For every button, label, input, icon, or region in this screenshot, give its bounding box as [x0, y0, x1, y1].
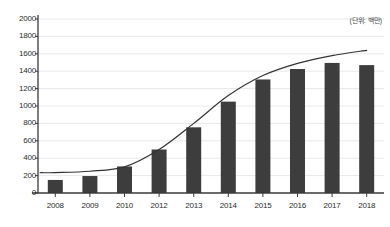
x-tick-label-2008: 2008: [39, 202, 71, 210]
bar-chart: 0200400600800100012001400160018002000 20…: [0, 0, 390, 227]
x-tick-label-2017: 2017: [316, 202, 348, 210]
x-tick-label-2012: 2012: [143, 202, 175, 210]
unit-annotation: (단위: 백만): [349, 15, 382, 25]
x-tick-label-2014: 2014: [212, 202, 244, 210]
x-axis-tick-labels: 2008200920102012201320142015201620172018: [0, 0, 390, 227]
x-tick-label-2013: 2013: [178, 202, 210, 210]
x-tick-label-2015: 2015: [247, 202, 279, 210]
x-tick-label-2016: 2016: [282, 202, 314, 210]
x-tick-label-2018: 2018: [351, 202, 383, 210]
x-tick-label-2010: 2010: [109, 202, 141, 210]
x-tick-label-2009: 2009: [74, 202, 106, 210]
